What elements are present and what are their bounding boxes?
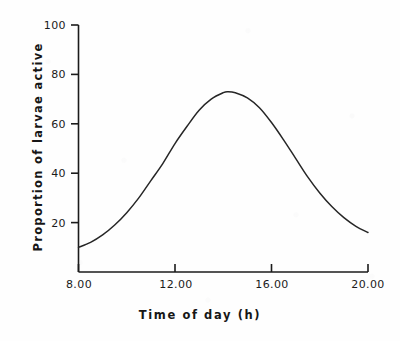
x-axis-title: Time of day (h) (0, 308, 400, 322)
data-series-line (79, 92, 369, 248)
y-axis-title: Proportion of larvae active (31, 27, 45, 267)
x-axis-ticks (79, 264, 369, 272)
x-tick-label-8: 8.00 (66, 278, 92, 291)
x-tick-label-16: 16.00 (255, 278, 289, 291)
y-axis-ticks (71, 25, 79, 223)
x-tick-label-20: 20.00 (351, 278, 385, 291)
x-tick-label-12: 12.00 (159, 278, 193, 291)
figure-panel: 100 80 60 40 20 8.00 12.00 16.00 20.00 P… (0, 0, 400, 341)
